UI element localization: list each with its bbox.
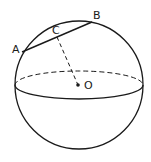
- label-o: O: [84, 79, 93, 92]
- diagram-svg: A B C O: [0, 0, 151, 162]
- label-c: C: [52, 24, 60, 37]
- equator-front-solid: [15, 85, 143, 99]
- segment-co-dashed: [57, 37, 78, 85]
- equator-back-dashed: [15, 71, 143, 85]
- label-a: A: [12, 43, 20, 56]
- center-point-o: [76, 83, 80, 87]
- label-b: B: [93, 9, 101, 22]
- sphere-diagram: A B C O: [0, 0, 151, 162]
